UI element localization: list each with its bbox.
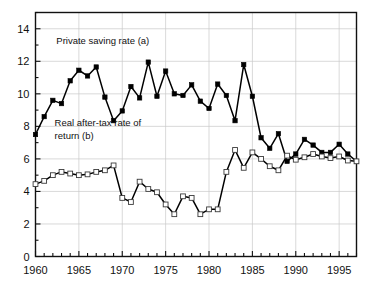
- data-point-marker: [172, 92, 176, 96]
- y-axis-tick-label: 4: [23, 185, 29, 197]
- series-annotation-label: Real after-tax rate of: [55, 117, 142, 128]
- data-point-marker: [94, 170, 99, 175]
- x-axis-tick-label: 1990: [284, 264, 308, 276]
- data-point-marker: [293, 157, 298, 162]
- data-point-marker: [59, 170, 64, 175]
- data-point-marker: [129, 84, 133, 88]
- series-annotation-label: Private saving rate (a): [56, 35, 149, 46]
- x-axis-tick-label: 1970: [110, 264, 134, 276]
- data-point-marker: [155, 190, 160, 195]
- data-point-marker: [285, 159, 289, 163]
- data-point-marker: [51, 98, 55, 102]
- data-point-marker: [233, 148, 238, 153]
- x-axis-tick-label: 1980: [197, 264, 221, 276]
- data-point-marker: [311, 152, 316, 157]
- y-axis-tick-label: 14: [17, 23, 29, 35]
- data-point-marker: [285, 153, 290, 158]
- data-point-marker: [215, 82, 219, 86]
- y-axis-tick-label: 2: [23, 218, 29, 230]
- data-point-marker: [103, 168, 108, 173]
- data-point-marker: [311, 143, 315, 147]
- x-axis-tick-label: 1995: [327, 264, 351, 276]
- data-point-marker: [328, 156, 333, 161]
- data-point-marker: [268, 146, 272, 150]
- x-axis-tick-label: 1965: [67, 264, 91, 276]
- data-point-marker: [77, 68, 81, 72]
- data-point-marker: [215, 207, 220, 212]
- data-point-marker: [163, 69, 167, 73]
- data-point-marker: [267, 164, 272, 169]
- data-point-marker: [337, 154, 342, 159]
- data-point-marker: [302, 137, 306, 141]
- line-chart: 0246810121419601965197019751980198519901…: [0, 0, 371, 291]
- y-axis-tick-label: 10: [17, 88, 29, 100]
- x-axis-tick-label: 1960: [23, 264, 47, 276]
- data-point-marker: [111, 163, 116, 168]
- data-point-marker: [259, 157, 264, 162]
- data-point-marker: [33, 182, 38, 187]
- data-point-marker: [276, 131, 280, 135]
- data-point-marker: [146, 187, 151, 192]
- data-point-marker: [189, 196, 194, 201]
- data-point-marker: [259, 136, 263, 140]
- data-point-marker: [345, 158, 350, 163]
- data-point-marker: [85, 172, 90, 177]
- data-point-marker: [103, 95, 107, 99]
- data-point-marker: [189, 83, 193, 87]
- data-point-marker: [198, 99, 202, 103]
- data-point-marker: [129, 200, 134, 205]
- y-axis-tick-label: 6: [23, 153, 29, 165]
- data-point-marker: [146, 60, 150, 64]
- data-point-marker: [337, 142, 341, 146]
- x-axis-tick-label: 1975: [153, 264, 177, 276]
- data-point-marker: [276, 168, 281, 173]
- y-axis-tick-label: 0: [23, 251, 29, 263]
- data-point-marker: [319, 154, 324, 159]
- data-point-marker: [68, 171, 73, 176]
- data-point-marker: [85, 74, 89, 78]
- data-point-marker: [241, 165, 246, 170]
- data-point-marker: [354, 159, 359, 164]
- data-point-marker: [120, 109, 124, 113]
- data-point-marker: [172, 212, 177, 217]
- data-point-marker: [328, 150, 332, 154]
- data-point-marker: [250, 150, 255, 155]
- data-point-marker: [42, 178, 47, 183]
- x-axis-tick-label: 1985: [240, 264, 264, 276]
- data-point-marker: [59, 101, 63, 105]
- chart-figure: 0246810121419601965197019751980198519901…: [0, 0, 371, 291]
- data-point-marker: [76, 173, 81, 178]
- data-point-marker: [94, 65, 98, 69]
- data-point-marker: [224, 93, 228, 97]
- data-point-marker: [224, 170, 229, 175]
- series-annotation-label: return (b): [55, 130, 94, 141]
- data-point-marker: [242, 62, 246, 66]
- data-point-marker: [294, 152, 298, 156]
- data-point-marker: [233, 118, 237, 122]
- data-point-marker: [181, 194, 186, 199]
- data-point-marker: [68, 79, 72, 83]
- data-point-marker: [181, 93, 185, 97]
- y-axis-tick-label: 8: [23, 120, 29, 132]
- data-point-marker: [163, 202, 168, 207]
- data-point-marker: [33, 132, 37, 136]
- data-point-marker: [346, 152, 350, 156]
- data-point-marker: [137, 96, 141, 100]
- data-point-marker: [250, 94, 254, 98]
- data-point-marker: [302, 155, 307, 160]
- data-point-marker: [155, 94, 159, 98]
- y-axis-tick-label: 12: [17, 55, 29, 67]
- data-point-marker: [42, 114, 46, 118]
- data-point-marker: [50, 173, 55, 178]
- data-point-marker: [207, 207, 212, 212]
- data-point-marker: [120, 196, 125, 201]
- data-point-marker: [198, 212, 203, 217]
- data-point-marker: [207, 106, 211, 110]
- data-point-marker: [137, 179, 142, 184]
